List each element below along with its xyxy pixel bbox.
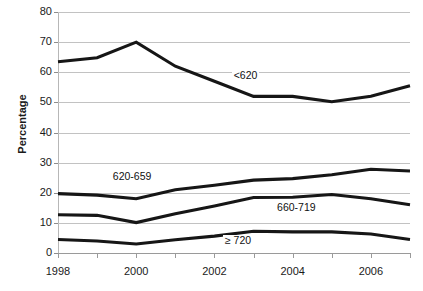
series-label-720: ≥ 720 [223, 235, 253, 247]
y-tick-mark-60 [54, 72, 58, 73]
y-tick-label-50: 50 [24, 96, 52, 107]
series-lines [58, 12, 410, 253]
series-label-620: <620 [232, 70, 260, 82]
y-tick-mark-0 [54, 253, 58, 254]
x-tick-mark-2004 [293, 253, 294, 258]
line-chart: Percentage 01020304050607080 19982000200… [0, 0, 423, 291]
x-tick-mark-1999 [97, 253, 98, 258]
series-label-660-719: 660-719 [275, 202, 318, 214]
y-tick-label-20: 20 [24, 187, 52, 198]
x-tick-label-2000: 2000 [116, 266, 156, 277]
y-tick-label-30: 30 [24, 157, 52, 168]
x-tick-mark-2005 [332, 253, 333, 258]
x-tick-label-2004: 2004 [273, 266, 313, 277]
x-tick-mark-1998 [58, 253, 59, 258]
x-tick-mark-2003 [254, 253, 255, 258]
x-tick-mark-2007 [410, 253, 411, 258]
x-tick-mark-2000 [136, 253, 137, 258]
y-tick-label-10: 10 [24, 217, 52, 228]
x-tick-mark-2006 [371, 253, 372, 258]
series-label-620-659: 620-659 [111, 171, 154, 183]
y-tick-mark-40 [54, 133, 58, 134]
x-tick-label-2002: 2002 [194, 266, 234, 277]
x-tick-label-1998: 1998 [38, 266, 78, 277]
y-tick-mark-20 [54, 193, 58, 194]
y-tick-mark-50 [54, 102, 58, 103]
plot-area [58, 12, 410, 253]
y-tick-label-80: 80 [24, 6, 52, 17]
y-tick-label-70: 70 [24, 36, 52, 47]
x-tick-mark-2002 [214, 253, 215, 258]
y-tick-label-60: 60 [24, 66, 52, 77]
x-tick-label-2006: 2006 [351, 266, 391, 277]
y-tick-mark-10 [54, 223, 58, 224]
y-tick-mark-80 [54, 12, 58, 13]
series-line-660-719 [58, 195, 410, 223]
y-tick-mark-70 [54, 42, 58, 43]
y-tick-label-40: 40 [24, 127, 52, 138]
x-tick-mark-2001 [175, 253, 176, 258]
y-tick-mark-30 [54, 163, 58, 164]
y-tick-label-0: 0 [24, 247, 52, 258]
gridline-0 [58, 253, 410, 254]
